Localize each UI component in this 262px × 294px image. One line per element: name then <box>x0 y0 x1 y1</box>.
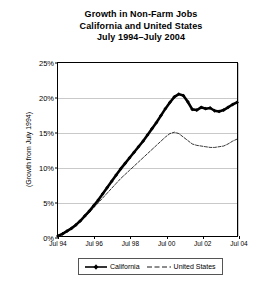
legend-item-california: California <box>85 263 140 271</box>
legend-marker-california <box>85 263 107 271</box>
y-tick-label: 25% <box>39 59 54 68</box>
legend-marker-united-states <box>147 263 171 271</box>
chart-title: Growth in Non-Farm Jobs <box>30 9 252 21</box>
y-tick-label: 10% <box>39 164 54 173</box>
chart-subtitle: California and United States <box>30 21 252 33</box>
x-tick-mark <box>94 236 95 239</box>
series-line-united-states <box>58 132 237 236</box>
chart-legend: California United States <box>78 258 223 275</box>
y-axis-label: (Growth from July 1994) <box>25 80 32 220</box>
y-tick-label: 20% <box>39 94 54 103</box>
x-tick-label: Jul 96 <box>86 240 103 247</box>
y-tick-label: 5% <box>43 199 54 208</box>
chart-figure: Growth in Non-Farm Jobs California and U… <box>0 0 262 294</box>
plot-area: 0%5%10%15%20%25% Jul 94Jul 96Jul 98Jul 0… <box>57 62 238 237</box>
x-tick-label: Jul 00 <box>158 240 175 247</box>
series-container <box>58 63 237 236</box>
x-tick-label: Jul 94 <box>49 240 66 247</box>
x-tick-label: Jul 04 <box>230 240 247 247</box>
chart-title-block: Growth in Non-Farm Jobs California and U… <box>30 9 252 44</box>
x-tick-mark <box>130 236 131 239</box>
x-tick-mark <box>203 236 204 239</box>
x-tick-label: Jul 98 <box>122 240 139 247</box>
chart-subtitle-period: July 1994–July 2004 <box>30 32 252 44</box>
y-tick-label: 15% <box>39 129 54 138</box>
legend-item-united-states: United States <box>147 263 216 271</box>
legend-label-california: California <box>110 263 140 270</box>
x-tick-label: Jul 02 <box>194 240 211 247</box>
vertical-gridline <box>238 63 239 236</box>
legend-label-united-states: United States <box>174 263 216 270</box>
x-tick-mark <box>239 236 240 239</box>
x-tick-mark <box>167 236 168 239</box>
